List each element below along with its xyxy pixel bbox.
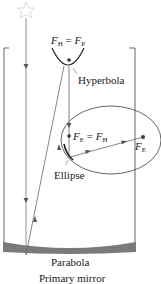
parabola-mirror bbox=[3, 242, 136, 254]
focus-sub: E bbox=[142, 146, 146, 154]
ellipse-far-focus-label: FE bbox=[135, 141, 146, 154]
arrow-right-icon bbox=[85, 150, 91, 154]
focus-sub: E bbox=[80, 136, 84, 144]
arrow-up-icon bbox=[57, 144, 61, 150]
focus-var: F bbox=[51, 34, 58, 46]
hyperbola-label: Hyperbola bbox=[78, 75, 124, 86]
equals-sign: = bbox=[87, 130, 93, 142]
focus-var: F bbox=[135, 140, 142, 152]
tube-left-wall bbox=[4, 48, 9, 250]
ellipse-focus-label: FE = FH bbox=[73, 131, 108, 144]
equals-sign: = bbox=[66, 34, 72, 46]
focus-var: F bbox=[73, 130, 80, 142]
focus-sub: H bbox=[58, 40, 63, 48]
ellipse-label: Ellipse bbox=[54, 170, 85, 181]
arrow-right-icon bbox=[121, 141, 127, 145]
ray-parabola-to-hyperbola bbox=[26, 66, 64, 255]
parabola-label: Parabola bbox=[51, 257, 89, 268]
hyperbola-focus-point bbox=[67, 58, 71, 62]
hyperbola-focus-label: FH = FP bbox=[51, 35, 85, 48]
arrow-down-icon bbox=[24, 198, 29, 203]
focus-sub: H bbox=[102, 136, 107, 144]
focus-sub: P bbox=[81, 40, 85, 48]
caption-label: Primary mirror bbox=[39, 273, 105, 284]
arrow-down-icon bbox=[24, 64, 29, 69]
ellipse-near-focus-point bbox=[67, 134, 71, 138]
star-outline-icon bbox=[17, 2, 35, 18]
hyperbola-leader bbox=[73, 68, 77, 74]
hyperbola-mirror bbox=[52, 48, 84, 65]
ellipse-leader bbox=[66, 160, 68, 165]
